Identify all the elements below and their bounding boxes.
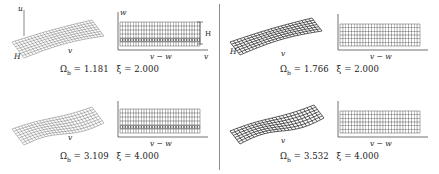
mode-shape-figure: u v H w v − w v H Ωb = 1.181 ξ (0, 0, 439, 174)
omega-value: 1.181 (84, 64, 109, 74)
panel-caption: Ωb = 1.766 ξ = 2.000 (220, 64, 439, 76)
xi-symbol: ξ (117, 64, 122, 74)
grid-plot-2d-svg: w v − w v H (108, 6, 216, 64)
xi-symbol: ξ (337, 64, 342, 74)
xi-value: 2.000 (354, 64, 379, 74)
axis-label-v: v (68, 133, 73, 142)
omega-value: 1.766 (304, 64, 329, 74)
grid-plot-2d-svg: v − w (328, 93, 436, 151)
surface-plot-3d-svg: v (226, 89, 330, 153)
equals-sign-2: = (344, 151, 351, 161)
xi-symbol: ξ (337, 151, 342, 161)
grid-plot-2d: v − w (328, 6, 436, 64)
axis-label-v-minus-w: v − w (370, 52, 392, 61)
omega-value: 3.532 (304, 151, 329, 161)
xi-symbol: ξ (117, 151, 122, 161)
equals-sign: = (294, 64, 301, 74)
equals-sign-2: = (344, 64, 351, 74)
panel-caption: Ωb = 1.181 ξ = 2.000 (0, 64, 219, 76)
axis-label-u: u (18, 4, 23, 13)
xi-value: 2.000 (134, 64, 159, 74)
omega-subscript: b (287, 69, 291, 76)
surface-plot-3d-svg: u v H (6, 2, 110, 66)
axis-label-w: w (120, 8, 127, 17)
grid-plot-2d-svg: v − w (108, 93, 216, 151)
xi-value: 4.000 (354, 151, 379, 161)
axis-label-v: v (281, 136, 286, 145)
axis-label-v: v (68, 46, 73, 55)
omega-subscript: b (287, 156, 291, 163)
surface-plot-3d: v (226, 89, 330, 153)
axis-label-v-minus-w: v − w (370, 139, 392, 148)
omega-value: 3.109 (84, 151, 109, 161)
surface-plot-3d: v (6, 89, 110, 153)
panel-caption: Ωb = 3.532 ξ = 4.000 (220, 151, 439, 163)
axis-label-v-minus-w: v − w (150, 139, 172, 148)
axis-label-v-minus-w: v − w (150, 52, 172, 61)
surface-plot-3d: v H (226, 2, 330, 66)
axis-label-v: v (281, 49, 286, 58)
equals-sign: = (294, 151, 301, 161)
axis-label-v: v (204, 52, 209, 61)
axis-label-H: H (13, 52, 21, 61)
equals-sign-2: = (124, 151, 131, 161)
panel-top-left: u v H w v − w v H Ωb = 1.181 ξ (0, 0, 219, 87)
xi-value: 4.000 (134, 151, 159, 161)
panel-bottom-left: v v − w Ωb = 3.109 ξ = 4.000 (0, 87, 219, 174)
axis-label-H: H (205, 30, 211, 38)
surface-plot-3d-svg: v (6, 89, 110, 153)
equals-sign: = (74, 151, 81, 161)
axis-label-H: H (229, 47, 237, 56)
panel-top-right: v H v − w Ωb = 1.766 ξ = 2.000 (220, 0, 439, 87)
equals-sign: = (74, 64, 81, 74)
panel-bottom-right: v v − w Ωb = 3.532 ξ = 4.000 (220, 87, 439, 174)
omega-subscript: b (67, 69, 71, 76)
omega-subscript: b (67, 156, 71, 163)
grid-plot-2d-svg: v − w (328, 6, 436, 64)
equals-sign-2: = (124, 64, 131, 74)
grid-plot-2d: w v − w v H (108, 6, 216, 64)
grid-plot-2d: v − w (108, 93, 216, 151)
surface-plot-3d: u v H (6, 2, 110, 66)
surface-plot-3d-svg: v H (226, 2, 330, 66)
grid-plot-2d: v − w (328, 93, 436, 151)
panel-caption: Ωb = 3.109 ξ = 4.000 (0, 151, 219, 163)
